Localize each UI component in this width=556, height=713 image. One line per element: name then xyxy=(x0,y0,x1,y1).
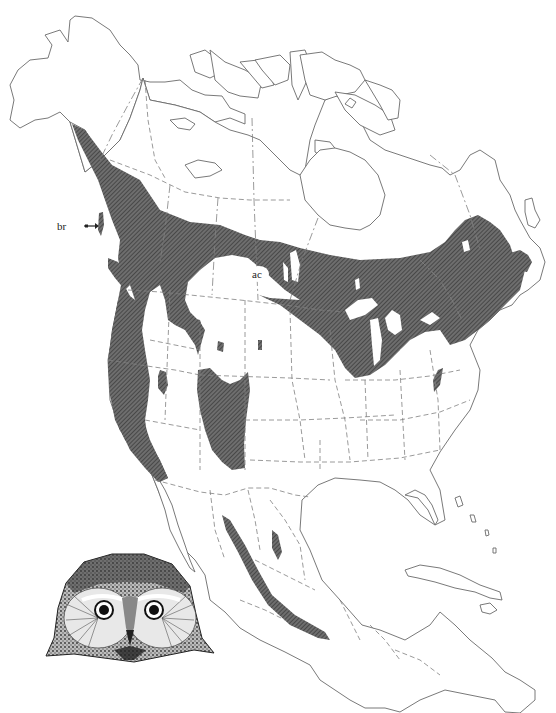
bahamas-d xyxy=(493,548,496,553)
range-black-hills-b xyxy=(258,340,262,350)
hispaniola xyxy=(480,603,497,614)
range-br-islands xyxy=(98,212,104,236)
bahamas-c xyxy=(485,530,489,536)
newfoundland xyxy=(525,198,540,228)
cuba xyxy=(405,565,502,600)
bahamas-a xyxy=(455,496,463,507)
bahamas-b xyxy=(470,515,476,522)
label-br: br xyxy=(57,220,67,232)
br-arrow-icon xyxy=(84,223,99,229)
label-ac: ac xyxy=(252,268,262,280)
owl-head-illustration xyxy=(46,554,214,662)
range-map: br ac xyxy=(0,0,556,713)
